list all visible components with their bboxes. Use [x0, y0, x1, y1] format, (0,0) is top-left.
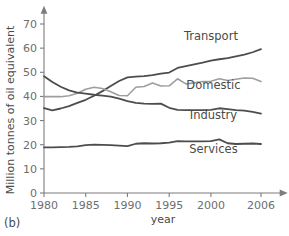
series-label-services: Services: [189, 142, 238, 156]
x-tick-label: 1980: [30, 199, 58, 212]
x-tick-label: 1985: [72, 199, 100, 212]
y-axis-title: Million tonnes of oil equivalent: [4, 25, 17, 194]
x-tick-label: 1990: [113, 199, 141, 212]
line-chart: 010203040506070 198019851990199520002006…: [0, 0, 289, 236]
series-label-transport: Transport: [183, 29, 238, 43]
x-tick-label: 1995: [155, 199, 183, 212]
y-tick-label: 10: [23, 163, 37, 176]
series-label-industry: Industry: [190, 108, 237, 122]
y-tick-label: 40: [23, 90, 37, 103]
y-tick-label: 20: [23, 139, 37, 152]
figure-panel: 010203040506070 198019851990199520002006…: [0, 0, 289, 236]
series-label-domestic: Domestic: [186, 78, 240, 92]
y-tick-label: 30: [23, 115, 37, 128]
y-tick-label: 60: [23, 42, 37, 55]
y-tick-label: 50: [23, 66, 37, 79]
x-tick-label: 2006: [247, 199, 275, 212]
figure-caption: (b): [4, 216, 20, 230]
x-tick-label: 2000: [197, 199, 225, 212]
y-tick-label: 70: [23, 18, 37, 31]
x-axis-title: year: [151, 213, 176, 226]
